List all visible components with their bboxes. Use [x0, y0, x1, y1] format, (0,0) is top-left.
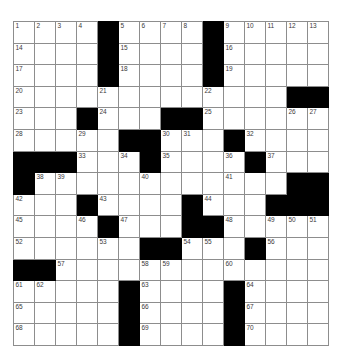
crossword-cell[interactable]: 57: [56, 259, 77, 281]
crossword-cell[interactable]: 43: [98, 194, 119, 216]
crossword-cell[interactable]: 8: [182, 22, 203, 44]
crossword-cell[interactable]: [35, 43, 56, 65]
crossword-cell[interactable]: [161, 302, 182, 324]
crossword-grid[interactable]: 1234567891011121314151617181920212223242…: [13, 21, 329, 346]
crossword-cell[interactable]: 67: [245, 302, 266, 324]
crossword-cell[interactable]: [266, 129, 287, 151]
crossword-cell[interactable]: [245, 86, 266, 108]
crossword-cell[interactable]: 9: [224, 22, 245, 44]
crossword-cell[interactable]: 33: [77, 151, 98, 173]
crossword-cell[interactable]: 20: [14, 86, 35, 108]
crossword-cell[interactable]: [77, 65, 98, 87]
crossword-cell[interactable]: 7: [161, 22, 182, 44]
crossword-cell[interactable]: [77, 86, 98, 108]
crossword-cell[interactable]: 6: [140, 22, 161, 44]
crossword-cell[interactable]: 19: [224, 65, 245, 87]
crossword-cell[interactable]: 53: [98, 237, 119, 259]
crossword-cell[interactable]: [119, 173, 140, 195]
crossword-cell[interactable]: 56: [266, 237, 287, 259]
crossword-cell[interactable]: 1: [14, 22, 35, 44]
crossword-cell[interactable]: 15: [119, 43, 140, 65]
crossword-cell[interactable]: [203, 151, 224, 173]
crossword-cell[interactable]: [119, 86, 140, 108]
crossword-cell[interactable]: [266, 302, 287, 324]
crossword-cell[interactable]: 45: [14, 216, 35, 238]
crossword-cell[interactable]: 64: [245, 281, 266, 303]
crossword-cell[interactable]: 34: [119, 151, 140, 173]
crossword-cell[interactable]: [140, 108, 161, 130]
crossword-cell[interactable]: [308, 281, 329, 303]
crossword-cell[interactable]: 42: [14, 194, 35, 216]
crossword-cell[interactable]: [77, 237, 98, 259]
crossword-cell[interactable]: 32: [245, 129, 266, 151]
crossword-cell[interactable]: 52: [14, 237, 35, 259]
crossword-cell[interactable]: [161, 86, 182, 108]
crossword-cell[interactable]: [266, 259, 287, 281]
crossword-cell[interactable]: 46: [77, 216, 98, 238]
crossword-cell[interactable]: [245, 194, 266, 216]
crossword-cell[interactable]: [287, 151, 308, 173]
crossword-cell[interactable]: 35: [161, 151, 182, 173]
crossword-cell[interactable]: [266, 108, 287, 130]
crossword-cell[interactable]: [182, 65, 203, 87]
crossword-cell[interactable]: [182, 302, 203, 324]
crossword-cell[interactable]: 37: [266, 151, 287, 173]
crossword-cell[interactable]: [161, 194, 182, 216]
crossword-cell[interactable]: [35, 108, 56, 130]
crossword-cell[interactable]: [224, 194, 245, 216]
crossword-cell[interactable]: 61: [14, 281, 35, 303]
crossword-cell[interactable]: 58: [140, 259, 161, 281]
crossword-cell[interactable]: [56, 65, 77, 87]
crossword-cell[interactable]: 36: [224, 151, 245, 173]
crossword-cell[interactable]: [161, 43, 182, 65]
crossword-cell[interactable]: [182, 86, 203, 108]
crossword-cell[interactable]: [182, 281, 203, 303]
crossword-cell[interactable]: [77, 324, 98, 346]
crossword-cell[interactable]: 62: [35, 281, 56, 303]
crossword-cell[interactable]: 22: [203, 86, 224, 108]
crossword-cell[interactable]: [182, 173, 203, 195]
crossword-cell[interactable]: [98, 151, 119, 173]
crossword-cell[interactable]: [266, 43, 287, 65]
crossword-cell[interactable]: [287, 259, 308, 281]
crossword-cell[interactable]: 63: [140, 281, 161, 303]
crossword-cell[interactable]: [308, 43, 329, 65]
crossword-cell[interactable]: [35, 194, 56, 216]
crossword-cell[interactable]: [56, 237, 77, 259]
crossword-cell[interactable]: [98, 281, 119, 303]
crossword-cell[interactable]: 13: [308, 22, 329, 44]
crossword-cell[interactable]: [308, 129, 329, 151]
crossword-cell[interactable]: 12: [287, 22, 308, 44]
crossword-cell[interactable]: 54: [182, 237, 203, 259]
crossword-cell[interactable]: 70: [245, 324, 266, 346]
crossword-cell[interactable]: [98, 259, 119, 281]
crossword-cell[interactable]: [35, 302, 56, 324]
crossword-cell[interactable]: [56, 129, 77, 151]
crossword-cell[interactable]: [182, 324, 203, 346]
crossword-cell[interactable]: [308, 237, 329, 259]
crossword-cell[interactable]: 24: [98, 108, 119, 130]
crossword-cell[interactable]: [266, 281, 287, 303]
crossword-cell[interactable]: [287, 281, 308, 303]
crossword-cell[interactable]: [161, 324, 182, 346]
crossword-cell[interactable]: [161, 65, 182, 87]
crossword-cell[interactable]: 4: [77, 22, 98, 44]
crossword-cell[interactable]: [119, 259, 140, 281]
crossword-cell[interactable]: [266, 173, 287, 195]
crossword-cell[interactable]: [287, 43, 308, 65]
crossword-cell[interactable]: 30: [161, 129, 182, 151]
crossword-cell[interactable]: [203, 324, 224, 346]
crossword-cell[interactable]: 10: [245, 22, 266, 44]
crossword-cell[interactable]: [161, 281, 182, 303]
crossword-cell[interactable]: 14: [14, 43, 35, 65]
crossword-cell[interactable]: 65: [14, 302, 35, 324]
crossword-cell[interactable]: [35, 216, 56, 238]
crossword-cell[interactable]: 48: [224, 216, 245, 238]
crossword-cell[interactable]: 25: [203, 108, 224, 130]
crossword-cell[interactable]: [245, 108, 266, 130]
crossword-cell[interactable]: [35, 237, 56, 259]
crossword-cell[interactable]: [35, 129, 56, 151]
crossword-cell[interactable]: 40: [140, 173, 161, 195]
crossword-cell[interactable]: [140, 86, 161, 108]
crossword-cell[interactable]: [224, 237, 245, 259]
